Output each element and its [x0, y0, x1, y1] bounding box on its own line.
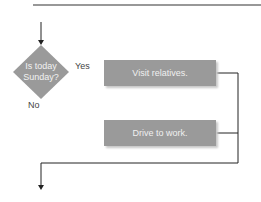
yes-label: Yes: [75, 61, 90, 71]
entry-arrow-head-icon: [38, 40, 44, 45]
process-drive-to-work: Drive to work.: [104, 120, 216, 146]
decision-line-1: Is today: [19, 61, 63, 72]
flowchart: Is today Sunday? Yes No Visit relatives.…: [0, 0, 261, 202]
no-label: No: [28, 100, 40, 110]
decision-line-2: Sunday?: [19, 72, 63, 83]
process-label: Drive to work.: [132, 128, 187, 138]
process-label: Visit relatives.: [132, 68, 187, 78]
process-visit-relatives: Visit relatives.: [104, 60, 216, 86]
exit-arrow-head-icon: [38, 185, 44, 190]
decision-text: Is today Sunday?: [19, 61, 63, 83]
